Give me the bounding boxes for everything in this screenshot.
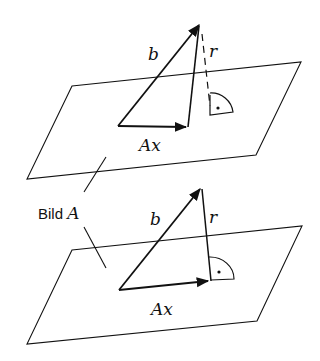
- plane-label: Bild A: [38, 203, 79, 223]
- top-label-ax: Ax: [137, 135, 161, 155]
- bottom-right-angle-dot: [217, 270, 220, 273]
- top-right-angle-icon: [210, 93, 233, 115]
- top-vector-ax: [118, 126, 186, 127]
- top-ax-to-b-edge: [188, 26, 199, 127]
- bottom-label-ax: Ax: [149, 299, 173, 319]
- plane-label-group: Bild A: [38, 157, 106, 268]
- projection-diagram: b r Ax Bild A b r Ax: [0, 0, 320, 361]
- top-vector-b: [118, 25, 199, 126]
- top-right-angle-dot: [216, 106, 219, 109]
- leader-line-top: [84, 157, 106, 192]
- top-label-b: b: [148, 44, 159, 64]
- bottom-label-r: r: [209, 207, 218, 227]
- top-label-r: r: [209, 41, 218, 61]
- bottom-vector-b: [119, 189, 200, 290]
- bottom-label-b: b: [150, 209, 161, 229]
- bottom-vector-r: [202, 189, 211, 281]
- bottom-right-angle-icon: [209, 257, 234, 280]
- top-panel: b r Ax: [27, 25, 301, 179]
- bottom-vector-ax: [119, 281, 208, 290]
- top-plane: [27, 62, 301, 179]
